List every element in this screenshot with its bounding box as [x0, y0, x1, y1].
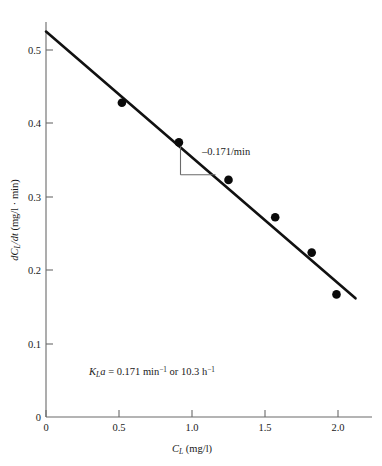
y-tick-label-0: 0 [36, 412, 41, 423]
y-tick-label-0.1: 0.1 [28, 339, 41, 350]
x-tick-label-2.0: 2.0 [331, 422, 344, 433]
data-point[interactable] [118, 99, 127, 108]
data-point[interactable] [332, 290, 341, 299]
y-axis-tick-labels: 0.5 0.4 0.3 0.2 0.1 0 [28, 45, 42, 423]
axis-lines [46, 22, 372, 417]
y-tick-label-0.3: 0.3 [28, 192, 41, 203]
kla-equation-annotation: KLa = 0.171 min−1 or 10.3 h−1 [88, 366, 215, 380]
slope-annotation-label: –0.171/min [201, 146, 251, 157]
x-tick-label-0: 0 [43, 422, 48, 433]
figure-container: 0.5 0.4 0.3 0.2 0.1 0 0 0.5 1.0 1.5 2.0 … [0, 0, 382, 466]
data-point[interactable] [175, 138, 184, 147]
kla-superscript-2: −1 [207, 366, 215, 374]
x-axis-title-units: (mg/l) [183, 443, 212, 455]
scatter-plot: 0.5 0.4 0.3 0.2 0.1 0 0 0.5 1.0 1.5 2.0 … [0, 0, 382, 466]
y-axis-title-units: (mg/l · min) [9, 179, 21, 233]
x-axis-ticks [46, 410, 338, 417]
x-tick-label-0.5: 0.5 [112, 422, 125, 433]
data-point[interactable] [271, 213, 280, 222]
kla-or: or 10.3 h [167, 366, 208, 377]
kla-equals: = 0.171 min [106, 366, 161, 377]
x-axis-title: CL (mg/l) [172, 443, 213, 456]
data-point[interactable] [307, 248, 316, 257]
y-axis-title: dCL/dt (mg/l · min) [9, 179, 22, 261]
y-tick-label-0.2: 0.2 [28, 265, 41, 276]
data-point[interactable] [224, 176, 233, 185]
y-tick-label-0.5: 0.5 [28, 45, 41, 56]
y-axis-ticks [46, 50, 53, 344]
data-points [118, 99, 341, 299]
x-axis-tick-labels: 0 0.5 1.0 1.5 2.0 [43, 422, 344, 433]
y-tick-label-0.4: 0.4 [28, 118, 42, 129]
x-tick-label-1.0: 1.0 [185, 422, 198, 433]
regression-line [46, 32, 356, 299]
x-tick-label-1.5: 1.5 [258, 422, 271, 433]
